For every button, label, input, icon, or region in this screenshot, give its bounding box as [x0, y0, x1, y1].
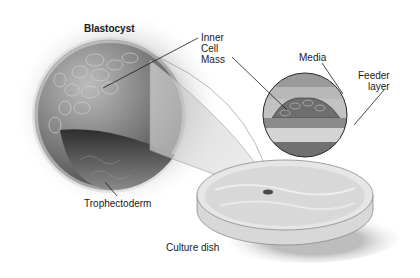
label-blastocyst: Blastocyst [84, 24, 135, 34]
label-inner-cell-mass-line1: Inner [201, 33, 224, 43]
colony-spot [263, 190, 273, 195]
label-inner-cell-mass-line3: Mass [201, 55, 225, 65]
label-feeder-layer-line1: Feeder [358, 71, 390, 81]
label-media: Media [299, 53, 326, 63]
label-trophectoderm: Trophectoderm [84, 199, 151, 209]
label-culture-dish: Culture dish [166, 243, 219, 253]
culture-dish [197, 160, 400, 263]
label-inner-cell-mass-line2: Cell [201, 44, 218, 54]
label-feeder-layer-line2: layer [368, 82, 390, 92]
